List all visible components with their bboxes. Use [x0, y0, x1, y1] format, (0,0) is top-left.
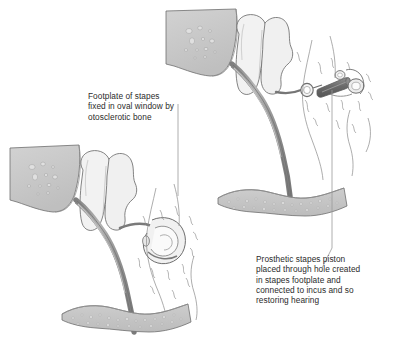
fixed-stapes-footplate	[120, 218, 185, 264]
caption-prosthesis: Prosthetic stapes piston placed through …	[256, 254, 396, 305]
ossicle-bodies-upper	[236, 15, 293, 95]
ossicle-bodies-lower	[80, 151, 137, 231]
bone-slab-upper	[218, 188, 347, 216]
temporal-bone-wedge-upper	[166, 9, 237, 76]
piston-cylinder	[317, 78, 350, 98]
bone-slab-lower	[62, 304, 191, 332]
tissue-contours-upper	[302, 36, 370, 180]
caption-otosclerosis: Footplate of stapes fixed in oval window…	[88, 91, 208, 122]
otosclerosis-figure	[10, 145, 198, 332]
temporal-bone-wedge-lower	[10, 145, 80, 212]
leader-line-prosthesis	[322, 90, 332, 268]
illustration-canvas: Footplate of stapes fixed in oval window…	[0, 0, 403, 350]
